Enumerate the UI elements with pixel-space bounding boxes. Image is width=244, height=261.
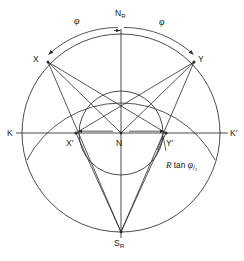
phi-arrow-left — [49, 27, 119, 54]
label-x-prime: X′ — [66, 139, 73, 148]
line-n-to-x — [48, 62, 121, 133]
label-south-pole-sub: R — [120, 242, 125, 249]
label-center-n: N — [116, 139, 122, 148]
annotation-fraction: /₂ — [193, 164, 197, 171]
line-yprime-to-south — [121, 133, 166, 232]
node-center — [120, 132, 123, 135]
line-y-to-south — [121, 62, 194, 232]
label-y-upper: Y — [198, 55, 204, 64]
label-phi-left: φ — [74, 16, 80, 26]
node-xprime — [74, 131, 77, 134]
label-k-right-prime: ′ — [236, 128, 238, 138]
label-x-prime-mark: ′ — [72, 138, 74, 148]
label-north-pole: NR — [115, 9, 126, 18]
node-yprime — [164, 131, 167, 134]
label-phi-right-text: φ — [159, 16, 165, 27]
geometry-diagram-svg — [0, 0, 244, 261]
label-phi-right: φ — [159, 17, 165, 27]
label-k-left-text: K — [7, 128, 13, 138]
label-k-right-text: K — [230, 128, 236, 138]
line-x-to-yprime — [48, 62, 166, 133]
line-x-to-south — [48, 62, 121, 232]
label-y-upper-text: Y — [198, 54, 204, 64]
label-y-prime-mark: ′ — [172, 138, 174, 148]
label-k-right: K′ — [230, 129, 237, 138]
phi-arrow-right — [124, 27, 194, 54]
label-x-prime-text: X — [66, 138, 72, 148]
node-y — [193, 61, 196, 64]
annotation-function-text: tan — [172, 160, 188, 170]
label-k-left: K — [7, 129, 13, 138]
annotation-r-tan-phi-half: R tan φ/₂ — [166, 161, 197, 171]
label-north-pole-sub: R — [121, 12, 126, 19]
line-xprime-to-south — [76, 133, 121, 232]
node-south — [120, 231, 123, 234]
label-x-upper-text: X — [33, 54, 39, 64]
label-x-upper: X — [33, 55, 39, 64]
node-x — [47, 61, 50, 64]
label-y-prime-text: Y — [166, 138, 172, 148]
line-y-to-xprime — [76, 62, 194, 133]
label-y-prime: Y′ — [166, 139, 173, 148]
label-phi-left-text: φ — [74, 15, 80, 26]
label-south-pole: SR — [114, 239, 124, 248]
figure-root: NR SR K K′ X Y X′ Y′ N φ φ R tan φ/₂ — [0, 0, 244, 261]
label-south-pole-text: S — [114, 238, 120, 248]
label-center-n-text: N — [116, 138, 122, 148]
line-n-to-y — [121, 62, 194, 133]
